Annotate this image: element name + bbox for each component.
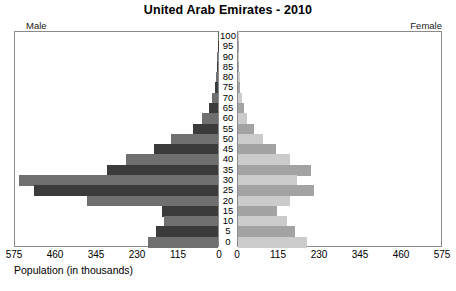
male-bar — [154, 144, 218, 155]
male-bar-row — [15, 62, 218, 73]
male-bar-row — [15, 216, 218, 227]
male-bar-row — [15, 82, 218, 93]
female-bar — [238, 185, 314, 196]
male-bar — [19, 175, 218, 186]
x-axis-label: Population (in thousands) — [14, 264, 133, 276]
female-bar-row — [238, 103, 441, 114]
female-bar-row — [238, 124, 441, 135]
female-bar-row — [238, 226, 441, 237]
female-bar — [238, 175, 297, 186]
x-tick-label: 0 — [216, 249, 222, 260]
female-bar-row — [238, 237, 441, 248]
x-tick-label: 0 — [234, 249, 240, 260]
male-bar — [202, 113, 218, 124]
female-bar-row — [238, 144, 441, 155]
male-bar-row — [15, 196, 218, 207]
x-tick-label: 230 — [129, 249, 146, 260]
female-bar — [238, 206, 277, 217]
male-bar-row — [15, 41, 218, 52]
female-bar-row — [238, 93, 441, 104]
male-bar-row — [15, 52, 218, 63]
male-bar-row — [15, 144, 218, 155]
male-bar — [162, 206, 218, 217]
male-bar — [209, 103, 218, 114]
female-bar-row — [238, 82, 441, 93]
male-bar-row — [15, 72, 218, 83]
x-tick-label: 345 — [88, 249, 105, 260]
age-axis: 1009590858075706560555045403530252015105… — [219, 31, 237, 247]
male-bar-row — [15, 206, 218, 217]
male-bar-row — [15, 237, 218, 248]
female-bar — [238, 154, 290, 165]
female-bar — [238, 216, 287, 227]
male-bar-row — [15, 93, 218, 104]
male-bar — [87, 196, 218, 207]
female-bar-row — [238, 52, 441, 63]
female-bar — [238, 144, 276, 155]
male-bar — [171, 134, 218, 145]
female-bar-row — [238, 206, 441, 217]
x-tick-label: 460 — [393, 249, 410, 260]
male-bar-row — [15, 103, 218, 114]
x-tick-label: 115 — [270, 249, 286, 260]
male-bar — [148, 237, 218, 248]
age-tick-label: 0 — [219, 237, 237, 248]
male-bar — [217, 62, 218, 73]
female-x-axis-ticks: 0115230345460575 — [237, 249, 442, 263]
male-axis-label: Male — [26, 20, 47, 31]
female-bar — [238, 72, 240, 83]
male-bar-row — [15, 31, 218, 42]
male-bar — [215, 82, 218, 93]
female-bar-row — [238, 196, 441, 207]
male-bar-row — [15, 134, 218, 145]
x-tick-label: 230 — [311, 249, 328, 260]
female-bar-row — [238, 154, 441, 165]
female-bar-row — [238, 31, 441, 42]
female-bar-row — [238, 41, 441, 52]
female-bar — [238, 82, 240, 93]
female-bar — [238, 113, 247, 124]
male-bar — [212, 93, 218, 104]
male-bar — [216, 72, 218, 83]
female-bar-row — [238, 165, 441, 176]
female-bar — [238, 62, 239, 73]
female-bar — [238, 226, 295, 237]
male-bar — [156, 226, 218, 237]
male-bar-row — [15, 185, 218, 196]
male-bar — [34, 185, 218, 196]
female-bar-row — [238, 113, 441, 124]
female-bar — [238, 237, 307, 248]
male-bar-row — [15, 154, 218, 165]
x-tick-label: 575 — [6, 249, 23, 260]
female-bar — [238, 196, 290, 207]
male-bar — [193, 124, 218, 135]
male-bar — [217, 52, 218, 63]
female-bar-row — [238, 216, 441, 227]
male-bar-row — [15, 175, 218, 186]
male-bar-row — [15, 124, 218, 135]
male-bar-row — [15, 165, 218, 176]
female-bar — [238, 103, 244, 114]
male-bars — [15, 31, 218, 247]
female-bar — [238, 93, 242, 104]
male-bar — [164, 216, 218, 227]
male-bar-row — [15, 226, 218, 237]
female-bar-row — [238, 72, 441, 83]
male-bar — [107, 165, 218, 176]
female-bar-row — [238, 185, 441, 196]
male-bar-row — [15, 113, 218, 124]
male-bar — [126, 154, 218, 165]
male-x-axis-ticks: 5754603452301150 — [14, 249, 219, 263]
x-tick-label: 460 — [47, 249, 64, 260]
x-tick-label: 115 — [170, 249, 186, 260]
female-bar — [238, 124, 254, 135]
female-bar — [238, 52, 239, 63]
female-axis-label: Female — [410, 20, 442, 31]
population-pyramid-chart: United Arab Emirates - 2010 Male Female … — [0, 0, 456, 291]
x-tick-label: 575 — [434, 249, 451, 260]
x-tick-label: 345 — [352, 249, 369, 260]
female-bar-row — [238, 175, 441, 186]
female-bars — [238, 31, 441, 247]
female-bar-row — [238, 134, 441, 145]
female-bar-row — [238, 62, 441, 73]
